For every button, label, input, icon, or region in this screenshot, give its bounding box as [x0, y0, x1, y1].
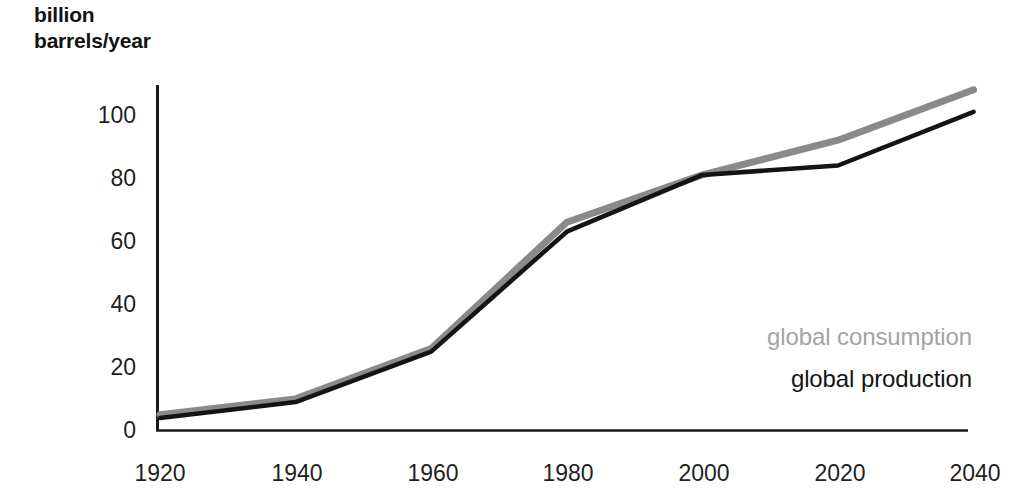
x-tick-2020: 2020	[814, 460, 865, 487]
x-tick-1940: 1940	[271, 460, 322, 487]
chart-figure: billion barrels/year 0 20 40 60 80 100 1…	[0, 0, 1030, 495]
y-tick-80: 80	[58, 165, 136, 192]
x-tick-1920: 1920	[134, 460, 185, 487]
x-tick-2040: 2040	[949, 460, 1000, 487]
y-tick-0: 0	[58, 417, 136, 444]
legend-label-global-consumption: global consumption	[767, 323, 972, 351]
x-tick-1960: 1960	[407, 460, 458, 487]
y-tick-60: 60	[58, 228, 136, 255]
y-tick-40: 40	[58, 291, 136, 318]
x-tick-2000: 2000	[678, 460, 729, 487]
plot-area	[0, 0, 1030, 495]
y-tick-20: 20	[58, 354, 136, 381]
y-tick-100: 100	[58, 102, 136, 129]
x-tick-1980: 1980	[542, 460, 593, 487]
legend-label-global-production: global production	[791, 365, 972, 393]
